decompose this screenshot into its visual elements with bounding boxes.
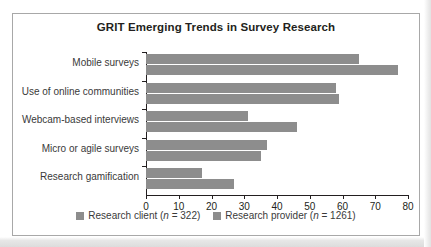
bar <box>146 83 336 93</box>
bar <box>146 168 202 178</box>
chart-title: GRIT Emerging Trends in Survey Research <box>13 21 419 33</box>
x-tick-mark <box>277 195 278 199</box>
category-label: Use of online communities <box>22 86 139 97</box>
category-label: Micro or agile surveys <box>42 143 139 154</box>
bar-group: Webcam-based interviews <box>146 109 408 138</box>
x-tick-mark <box>179 195 180 199</box>
legend-label: Research client (n = 322) <box>88 210 200 221</box>
bar-group: Research gamification <box>146 166 408 195</box>
legend-label: Research provider (n = 1261) <box>225 210 355 221</box>
bar <box>146 151 261 161</box>
legend-swatch-icon <box>76 212 84 220</box>
page-edge-shadow <box>0 237 431 247</box>
bar-group: Use of online communities <box>146 81 408 110</box>
category-label: Research gamification <box>40 171 139 182</box>
category-label: Webcam-based interviews <box>22 114 139 125</box>
bar <box>146 111 248 121</box>
bar <box>146 65 398 75</box>
figure: GRIT Emerging Trends in Survey Research … <box>0 0 431 247</box>
legend-item[interactable]: Research client (n = 322) <box>76 210 200 221</box>
x-tick-mark <box>146 195 147 199</box>
legend-item[interactable]: Research provider (n = 1261) <box>213 210 355 221</box>
category-label: Mobile surveys <box>72 57 139 68</box>
bar <box>146 94 339 104</box>
page-edge-shadow-right <box>424 0 431 247</box>
x-tick-mark <box>244 195 245 199</box>
x-tick-mark <box>310 195 311 199</box>
bar-group: Mobile surveys <box>146 52 408 81</box>
bar <box>146 140 267 150</box>
bar <box>146 54 359 64</box>
x-tick-mark <box>343 195 344 199</box>
bar <box>146 179 234 189</box>
plot-area: 01020304050607080 Mobile surveysUse of o… <box>146 52 408 195</box>
chart-frame: GRIT Emerging Trends in Survey Research … <box>12 13 420 236</box>
chart-legend: Research client (n = 322)Research provid… <box>13 210 419 221</box>
bar-group: Micro or agile surveys <box>146 138 408 167</box>
x-tick-mark <box>408 195 409 199</box>
x-tick-mark <box>375 195 376 199</box>
x-tick-mark <box>212 195 213 199</box>
bar <box>146 122 297 132</box>
legend-swatch-icon <box>213 212 221 220</box>
